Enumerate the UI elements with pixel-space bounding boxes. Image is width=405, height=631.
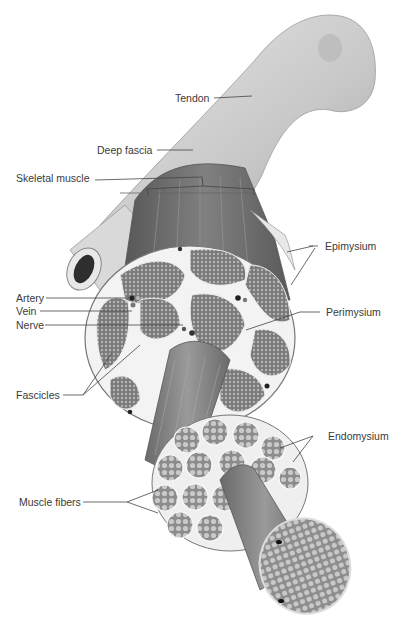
label-nerve: Nerve [16,319,44,331]
label-vein: Vein [16,305,36,317]
label-deep-fascia: Deep fascia [97,144,152,156]
label-artery: Artery [16,292,44,304]
label-skeletal-muscle: Skeletal muscle [16,172,90,184]
label-muscle-fibers: Muscle fibers [19,496,81,508]
label-perimysium: Perimysium [326,306,381,318]
label-epimysium: Epimysium [325,240,376,252]
label-fascicles: Fascicles [16,389,60,401]
label-endomysium: Endomysium [328,430,389,442]
label-tendon: Tendon [175,92,209,104]
